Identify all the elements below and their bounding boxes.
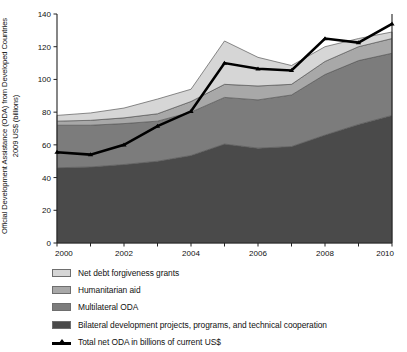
swatch-bilateral-development [52,321,71,329]
legend-item-multilateral-oda[interactable]: Multilateral ODA [52,299,402,316]
legend-label-multilateral-oda: Multilateral ODA [78,302,138,312]
legend-label-bilateral-development: Bilateral development projects, programs… [78,320,327,330]
legend-item-net-debt-forgiveness-grants[interactable]: Net debt forgiveness grants [52,264,402,281]
swatch-humanitarian-aid [52,286,71,294]
x-tick-label: 2006 [249,249,267,258]
x-tick-label: 2000 [55,249,73,258]
y-tick-label: 80 [42,108,51,117]
legend-label-total-net-oda: Total net ODA in billions of current US$ [78,337,221,347]
y-tick-label: 40 [42,174,51,183]
chart-legend: Net debt forgiveness grants Humanitarian… [52,264,402,351]
x-tick-label: 2008 [316,249,334,258]
x-tick-label: 2002 [115,249,133,258]
swatch-total-net-oda-line [52,338,71,346]
legend-item-total-net-oda[interactable]: Total net ODA in billions of current US$ [52,334,402,351]
y-tick-label: 20 [42,206,51,215]
y-tick-label: 60 [42,141,51,150]
swatch-net-debt-forgiveness-grants [52,269,71,277]
y-tick-label: 0 [47,239,52,248]
chart-figure: Official Development Assistance (ODA) fr… [0,0,407,352]
y-tick-label: 100 [38,75,52,84]
x-tick-label: 2004 [182,249,200,258]
y-tick-label: 120 [38,43,52,52]
legend-label-humanitarian-aid: Humanitarian aid [78,285,141,295]
chart-plot-area: 0204060801001201402000200220042006200820… [0,0,407,262]
y-tick-label: 140 [38,10,52,19]
swatch-multilateral-oda [52,303,71,311]
triangle-marker-icon [59,339,65,343]
legend-item-humanitarian-aid[interactable]: Humanitarian aid [52,281,402,298]
x-tick-label: 2010 [376,249,394,258]
legend-label-net-debt-forgiveness-grants: Net debt forgiveness grants [78,268,179,278]
legend-item-bilateral-development[interactable]: Bilateral development projects, programs… [52,316,402,333]
